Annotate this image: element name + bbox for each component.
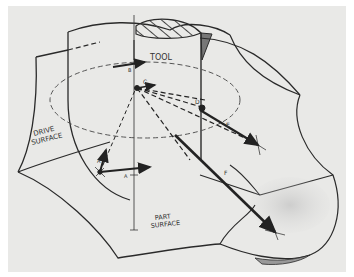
- vector-b-label: B: [128, 67, 132, 73]
- tool-surface-diagram: TOOL DRIVE SURFACE PART SURFACE A A B C …: [0, 0, 354, 277]
- vector-e-label: E: [226, 121, 230, 128]
- drive-surface: [18, 42, 110, 172]
- vector-c-label: C: [143, 78, 147, 85]
- right-surface: [200, 35, 338, 255]
- vector-a-label: A: [97, 158, 101, 164]
- tool-label: TOOL: [149, 53, 172, 62]
- vector-a2-label: A: [124, 173, 128, 179]
- part-surface-label-line2: SURFACE: [150, 219, 180, 230]
- vector-f-label: F: [224, 169, 228, 176]
- vector-d-label: D: [195, 98, 200, 105]
